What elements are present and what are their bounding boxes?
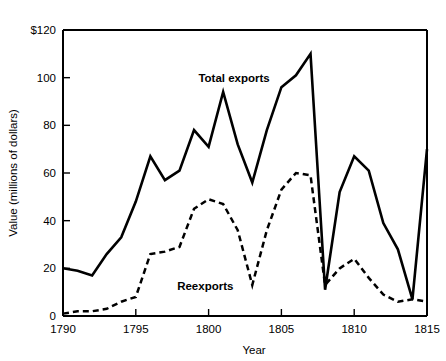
y-axis-ticks: 020406080100$120 bbox=[30, 24, 70, 322]
x-axis-ticks: 179017951800180518101815 bbox=[50, 309, 440, 335]
x-axis-title: Year bbox=[242, 344, 265, 356]
y-tick-label: 60 bbox=[43, 167, 56, 179]
series-label-reexports: Reexports bbox=[177, 280, 233, 292]
x-tick-label: 1790 bbox=[50, 323, 76, 335]
y-tick-label: 40 bbox=[43, 215, 56, 227]
y-axis-title: Value (millions of dollars) bbox=[7, 109, 19, 237]
x-tick-label: 1805 bbox=[269, 323, 295, 335]
series-label-total-exports: Total exports bbox=[198, 72, 269, 84]
y-tick-label: 20 bbox=[43, 262, 56, 274]
chart-container: 020406080100$120 17901795180018051810181… bbox=[0, 0, 446, 361]
series-line-total-exports bbox=[63, 54, 427, 299]
y-tick-label: $120 bbox=[30, 24, 56, 36]
y-tick-label: 80 bbox=[43, 119, 56, 131]
x-tick-label: 1810 bbox=[341, 323, 367, 335]
x-tick-label: 1815 bbox=[414, 323, 440, 335]
x-tick-label: 1795 bbox=[123, 323, 149, 335]
y-tick-label: 0 bbox=[50, 310, 56, 322]
y-tick-label: 100 bbox=[37, 72, 56, 84]
line-chart: 020406080100$120 17901795180018051810181… bbox=[0, 0, 446, 361]
x-tick-label: 1800 bbox=[196, 323, 222, 335]
